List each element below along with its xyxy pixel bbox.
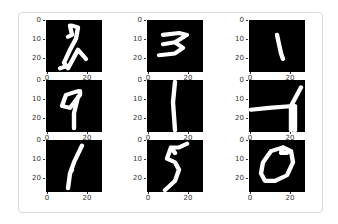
digit-image <box>147 20 203 72</box>
y-tick-label: 10 <box>230 156 244 163</box>
digit-image <box>147 140 203 192</box>
y-tick-label: 20 <box>27 55 41 62</box>
y-tick-label: 0 <box>230 77 244 84</box>
y-tick-label: 0 <box>27 137 41 144</box>
y-tick-label: 0 <box>27 17 41 24</box>
y-tick-label: 10 <box>230 36 244 43</box>
y-tick-label: 10 <box>230 96 244 103</box>
y-tick-label: 20 <box>27 115 41 122</box>
y-tick-label: 0 <box>230 137 244 144</box>
digit-image <box>46 80 102 132</box>
y-tick-label: 20 <box>128 175 142 182</box>
y-tick-label: 10 <box>27 36 41 43</box>
x-tick-label: 0 <box>40 195 54 202</box>
y-tick-label: 10 <box>27 96 41 103</box>
digit-image <box>46 140 102 192</box>
x-tick-label: 0 <box>141 195 155 202</box>
x-tick-label: 20 <box>283 195 297 202</box>
y-tick-label: 20 <box>128 55 142 62</box>
y-tick-label: 20 <box>230 175 244 182</box>
digit-image <box>46 20 102 72</box>
x-tick-label: 20 <box>80 195 94 202</box>
y-tick-label: 0 <box>128 137 142 144</box>
y-tick-label: 0 <box>230 17 244 24</box>
digit-image <box>249 20 305 72</box>
y-tick-label: 0 <box>128 17 142 24</box>
digit-image <box>147 80 203 132</box>
y-tick-label: 10 <box>128 36 142 43</box>
y-tick-label: 20 <box>230 55 244 62</box>
y-tick-label: 10 <box>128 96 142 103</box>
digit-image <box>249 140 305 192</box>
y-tick-label: 0 <box>128 77 142 84</box>
y-tick-label: 0 <box>27 77 41 84</box>
y-tick-label: 10 <box>128 156 142 163</box>
y-tick-label: 10 <box>27 156 41 163</box>
x-tick-label: 0 <box>243 195 257 202</box>
y-tick-label: 20 <box>128 115 142 122</box>
y-tick-label: 20 <box>230 115 244 122</box>
x-tick-label: 20 <box>181 195 195 202</box>
digit-image <box>249 80 305 132</box>
y-tick-label: 20 <box>27 175 41 182</box>
